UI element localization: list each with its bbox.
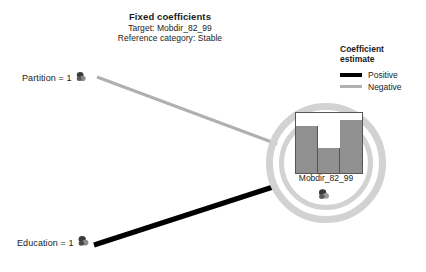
legend: Coefficient estimate Positive Negative bbox=[340, 44, 426, 93]
legend-title-line-2: estimate bbox=[340, 54, 426, 64]
mini-bar bbox=[296, 126, 318, 173]
legend-item-negative: Negative bbox=[340, 81, 426, 93]
predictor-node-icon bbox=[78, 234, 93, 252]
node-target-label: Mobdir_82_99 bbox=[266, 173, 386, 183]
diagram-canvas: Fixed coefficients Target: Mobdir_82_99 … bbox=[0, 0, 426, 272]
legend-items: Positive Negative bbox=[340, 69, 426, 93]
node-education[interactable]: Education = 1 bbox=[17, 234, 93, 252]
legend-title-line-1: Coefficient bbox=[340, 44, 426, 54]
edge-education-to-target bbox=[94, 186, 276, 245]
edge-partition-to-target bbox=[97, 77, 277, 144]
legend-item-positive: Positive bbox=[340, 69, 426, 81]
predictor-node-icon bbox=[76, 69, 90, 87]
node-education-label: Education = 1 bbox=[17, 238, 74, 248]
mini-bar bbox=[340, 120, 362, 173]
legend-label-negative: Negative bbox=[368, 82, 402, 92]
mini-bar bbox=[318, 148, 340, 173]
target-mini-bar-chart bbox=[295, 112, 363, 174]
legend-swatch-negative-icon bbox=[340, 81, 364, 93]
legend-label-positive: Positive bbox=[368, 70, 398, 80]
legend-swatch-positive-icon bbox=[340, 69, 364, 81]
node-target[interactable]: Mobdir_82_99 bbox=[266, 103, 386, 223]
node-partition[interactable]: Partition = 1 bbox=[22, 69, 90, 87]
node-partition-label: Partition = 1 bbox=[22, 73, 72, 83]
target-node-icon bbox=[318, 187, 334, 205]
